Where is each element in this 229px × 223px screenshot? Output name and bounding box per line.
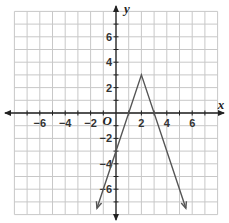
y-tick-label: −2 xyxy=(99,132,112,144)
x-tick-label: −6 xyxy=(34,117,47,129)
coordinate-plane: −6−4−2246642−2−4−6Oxy xyxy=(0,0,229,223)
y-axis-label: y xyxy=(122,1,130,16)
x-tick-label: 4 xyxy=(164,117,171,129)
x-axis-label: x xyxy=(217,97,225,112)
y-axis-down-arrow-icon xyxy=(113,214,119,221)
x-tick-label: −4 xyxy=(59,117,72,129)
y-tick-label: 4 xyxy=(106,56,113,68)
x-tick-label: 2 xyxy=(138,117,144,129)
y-tick-label: 2 xyxy=(106,82,112,94)
y-tick-label: 6 xyxy=(106,31,112,43)
y-axis-up-arrow-icon xyxy=(113,5,119,12)
x-tick-label: 6 xyxy=(189,117,195,129)
origin-label: O xyxy=(103,113,113,128)
x-tick-label: −2 xyxy=(84,117,97,129)
x-axis-left-arrow-icon xyxy=(4,110,11,116)
